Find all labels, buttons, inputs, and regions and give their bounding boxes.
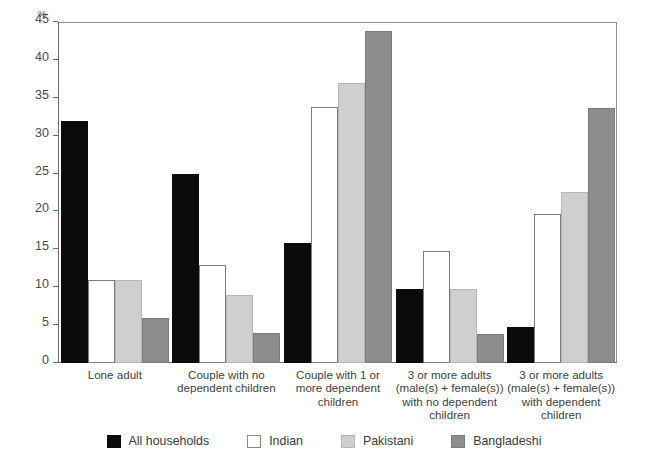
y-tick-label: 20 [35, 202, 49, 215]
y-tick-mark [53, 362, 58, 363]
x-axis-labels: Lone adultCouple with nodependent childr… [59, 368, 617, 430]
bar [365, 31, 392, 363]
x-axis-label-line: with dependent [497, 395, 625, 408]
y-tick-mark [53, 135, 58, 136]
bar [588, 108, 615, 363]
y-tick-label: 35 [35, 89, 49, 102]
y-axis-percent-label: % [38, 8, 46, 19]
dark-gray-swatch [451, 435, 465, 448]
legend-item-4[interactable]: Bangladeshi [451, 434, 541, 448]
bar-chart: 051015202530354045 % Lone adultCouple wi… [0, 0, 648, 470]
bar [199, 265, 226, 364]
bar-group-3 [282, 22, 394, 363]
y-tick-label: 0 [42, 354, 49, 367]
bar-group-5 [505, 22, 617, 363]
light-gray-swatch [341, 435, 355, 448]
white-swatch [247, 435, 261, 448]
legend-label: Bangladeshi [473, 434, 541, 448]
bar-group-1 [59, 22, 171, 363]
x-axis-label-line: children [386, 408, 514, 421]
bar-group-2 [171, 22, 283, 363]
y-tick-mark [53, 248, 58, 249]
y-tick-mark [53, 173, 58, 174]
legend-label: All households [129, 434, 210, 448]
legend-item-1[interactable]: All households [107, 434, 210, 448]
bar [172, 174, 199, 363]
bar-groups [59, 22, 617, 363]
legend-item-2[interactable]: Indian [247, 434, 303, 448]
y-tick-label: 5 [42, 316, 49, 329]
chart-legend: All householdsIndianPakistaniBangladeshi [0, 434, 648, 448]
x-axis-label-line: 3 or more adults [386, 368, 514, 381]
y-tick-mark [53, 324, 58, 325]
bar [477, 334, 504, 363]
x-axis-label-5: 3 or more adults(male(s) + female(s))wit… [497, 368, 625, 422]
y-tick-label: 15 [35, 240, 49, 253]
bar [396, 289, 423, 363]
bar [88, 280, 115, 363]
bar [423, 251, 450, 363]
x-axis-label-line: Lone adult [51, 368, 179, 381]
x-axis-label-line: children [497, 408, 625, 421]
x-axis-label-3: Couple with 1 ormore dependentchildren [274, 368, 402, 408]
bar [61, 121, 88, 363]
y-tick-mark [53, 210, 58, 211]
bar-group-4 [394, 22, 506, 363]
x-axis-label-line: more dependent [274, 381, 402, 394]
x-axis-label-1: Lone adult [51, 368, 179, 381]
y-tick-label: 10 [35, 278, 49, 291]
y-tick-mark [53, 286, 58, 287]
y-tick-label: 25 [35, 165, 49, 178]
x-axis-label-line: with no dependent [386, 395, 514, 408]
bar [311, 107, 338, 363]
bar [507, 327, 534, 363]
x-axis-label-2: Couple with nodependent children [163, 368, 291, 395]
x-axis-label-line: Couple with 1 or [274, 368, 402, 381]
y-tick-label: 40 [35, 51, 49, 64]
x-axis-label-line: children [274, 395, 402, 408]
bar [226, 295, 253, 363]
x-axis-label-line: (male(s) + female(s)) [386, 381, 514, 394]
legend-item-3[interactable]: Pakistani [341, 434, 413, 448]
x-axis-label-line: 3 or more adults [497, 368, 625, 381]
y-tick-mark [53, 21, 58, 22]
bar [284, 243, 311, 363]
y-tick-label: 30 [35, 127, 49, 140]
legend-label: Pakistani [363, 434, 413, 448]
y-tick-mark [53, 97, 58, 98]
bar [142, 318, 169, 363]
black-swatch [107, 435, 121, 448]
bar [450, 289, 477, 363]
x-axis-label-4: 3 or more adults(male(s) + female(s))wit… [386, 368, 514, 422]
bar [253, 333, 280, 363]
x-axis-label-line: dependent children [163, 381, 291, 394]
y-tick-mark [53, 59, 58, 60]
bar [338, 83, 365, 363]
legend-label: Indian [269, 434, 303, 448]
bar [115, 280, 142, 363]
bar [534, 214, 561, 363]
x-axis-label-line: Couple with no [163, 368, 291, 381]
x-axis-label-line: (male(s) + female(s)) [497, 381, 625, 394]
bar [561, 192, 588, 363]
